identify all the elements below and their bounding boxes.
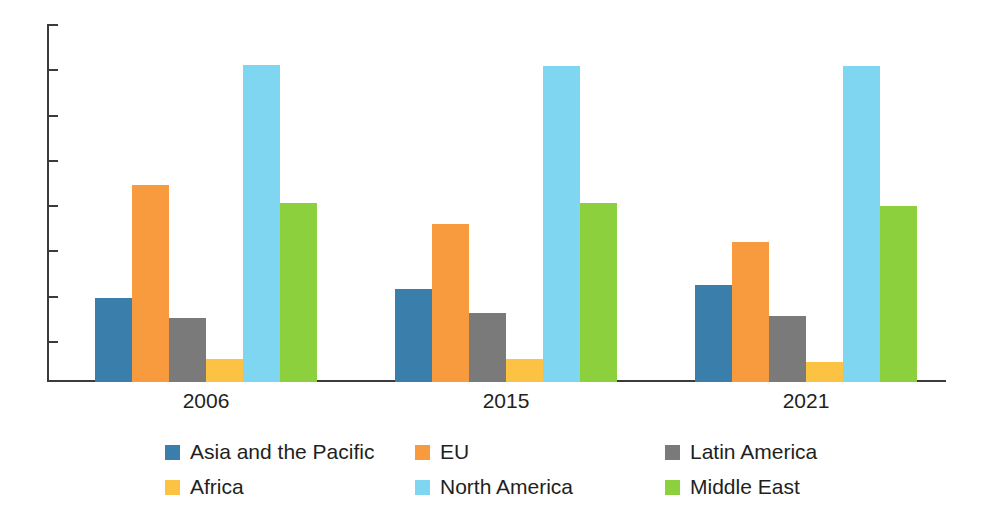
- bar: [543, 66, 580, 382]
- bar: [880, 206, 917, 382]
- bar-chart: 0246810121416 200620152021 Asia and the …: [0, 0, 986, 507]
- chart-legend: Asia and the PacificEULatin AmericaAfric…: [0, 437, 986, 507]
- x-axis-category-labels: 200620152021: [49, 388, 947, 420]
- legend-label: Asia and the Pacific: [190, 440, 374, 464]
- bar: [95, 298, 132, 382]
- legend-item: Africa: [165, 472, 244, 502]
- legend-swatch-icon: [665, 445, 680, 460]
- bar-groups: [49, 18, 947, 382]
- bar: [843, 66, 880, 382]
- legend-label: Africa: [190, 475, 244, 499]
- legend-swatch-icon: [165, 480, 180, 495]
- legend-swatch-icon: [415, 445, 430, 460]
- legend-label: EU: [440, 440, 469, 464]
- legend-swatch-icon: [415, 480, 430, 495]
- legend-item: Middle East: [665, 472, 800, 502]
- bar: [469, 313, 506, 382]
- x-axis-label-2015: 2015: [395, 388, 617, 414]
- bar: [695, 285, 732, 382]
- bar: [169, 318, 206, 382]
- bar: [769, 316, 806, 382]
- legend-item: Latin America: [665, 437, 817, 467]
- legend-label: Middle East: [690, 475, 800, 499]
- bar: [732, 242, 769, 382]
- legend-swatch-icon: [665, 480, 680, 495]
- legend-item: Asia and the Pacific: [165, 437, 374, 467]
- bar-group-2006: [95, 18, 317, 382]
- legend-item: North America: [415, 472, 573, 502]
- bar: [243, 65, 280, 382]
- bar: [280, 203, 317, 382]
- bar: [432, 224, 469, 382]
- bar: [806, 362, 843, 382]
- legend-item: EU: [415, 437, 469, 467]
- x-axis-label-2006: 2006: [95, 388, 317, 414]
- bar: [580, 203, 617, 382]
- bar: [506, 359, 543, 382]
- legend-swatch-icon: [165, 445, 180, 460]
- bar-group-2021: [695, 18, 917, 382]
- bar-group-2015: [395, 18, 617, 382]
- legend-label: North America: [440, 475, 573, 499]
- bar: [132, 185, 169, 382]
- x-axis-label-2021: 2021: [695, 388, 917, 414]
- bar: [395, 289, 432, 382]
- legend-label: Latin America: [690, 440, 817, 464]
- bar: [206, 359, 243, 382]
